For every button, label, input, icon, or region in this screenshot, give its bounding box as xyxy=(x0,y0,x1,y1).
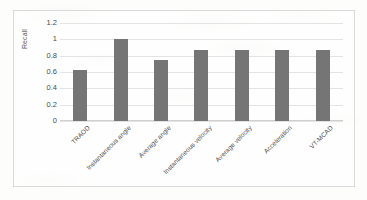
chart-screenshot: Recall 00.20.40.60.811.2 TRAODInstantane… xyxy=(0,0,367,200)
x-axis-tick-labels: TRAODInstantaneous angleAverage angleIns… xyxy=(60,124,343,184)
x-tick-label: TRAOD xyxy=(70,124,91,145)
bar xyxy=(316,50,330,121)
y-tick-label: 1 xyxy=(33,35,57,43)
y-tick-label: 0.8 xyxy=(33,52,57,60)
x-tick-label: Instantaneous angle xyxy=(85,124,132,171)
x-tick-label: Acceleration xyxy=(263,124,294,155)
bar-slot xyxy=(222,23,262,121)
plot-area xyxy=(60,23,343,121)
bar xyxy=(194,50,208,121)
x-tick-label: Average velocity xyxy=(214,124,253,163)
y-tick-label: 0 xyxy=(33,117,57,125)
bar xyxy=(235,50,249,121)
y-axis-title: Recall xyxy=(21,14,33,64)
bar xyxy=(275,50,289,121)
bar-slot xyxy=(181,23,221,121)
y-axis-tick-labels: 00.20.40.60.811.2 xyxy=(33,18,57,126)
bar-slot xyxy=(100,23,140,121)
x-tick-label: VT-MCAD xyxy=(308,124,334,150)
bar-slot xyxy=(141,23,181,121)
y-tick-label: 0.6 xyxy=(33,68,57,76)
bar xyxy=(73,70,87,121)
y-tick-label: 0.2 xyxy=(33,101,57,109)
x-tick-label: Average angle xyxy=(137,124,172,159)
bar xyxy=(154,60,168,121)
bar xyxy=(114,39,128,121)
y-tick-label: 1.2 xyxy=(33,19,57,27)
bar-slot xyxy=(60,23,100,121)
bar-slot xyxy=(303,23,343,121)
y-tick-label: 0.4 xyxy=(33,84,57,92)
bar-slot xyxy=(262,23,302,121)
gridline xyxy=(60,121,343,122)
bars xyxy=(60,23,343,121)
